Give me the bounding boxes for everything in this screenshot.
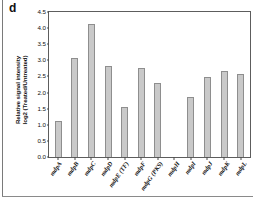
x-axis-label-slot: mdpC bbox=[83, 160, 100, 203]
x-axis-tick-label: mdpJ bbox=[200, 160, 214, 176]
bar-slot bbox=[83, 12, 100, 157]
bar-slot bbox=[183, 12, 200, 157]
x-axis-tick-label: mdpA bbox=[48, 160, 63, 177]
bar bbox=[237, 74, 244, 157]
bar bbox=[221, 71, 228, 157]
bar-slot bbox=[199, 12, 216, 157]
bar-slot bbox=[67, 12, 84, 157]
x-axis-tick-label: mdpC bbox=[82, 160, 97, 177]
bar-series bbox=[49, 12, 250, 157]
y-axis-title-line2: log2 (Treated/Untreated) bbox=[21, 56, 28, 125]
x-axis-label-slot: mdpH bbox=[166, 160, 183, 203]
bar bbox=[71, 58, 78, 157]
x-axis-label-slot: mdpA bbox=[49, 160, 66, 203]
figure-panel-d: d Relative signal intensity log2 (Treate… bbox=[0, 0, 255, 203]
x-axis-label-slot: mdpL bbox=[233, 160, 250, 203]
x-axis-tick-label: mdpB bbox=[65, 160, 80, 177]
x-axis-tick-label: mdpH bbox=[165, 160, 180, 177]
x-axis-tick-label: mdpK bbox=[216, 160, 231, 177]
x-axis-tick-label: mdpF bbox=[132, 160, 147, 177]
bar bbox=[204, 77, 211, 157]
bar-slot bbox=[166, 12, 183, 157]
bar bbox=[121, 107, 128, 157]
plot-area: 0.00.51.01.52.02.53.03.54.04.5 bbox=[48, 11, 251, 158]
bar bbox=[105, 66, 112, 157]
y-axis-title-line1: Relative signal intensity bbox=[14, 56, 21, 124]
page-edge-rule-left bbox=[2, 0, 3, 196]
x-axis-label-slot: mdpB bbox=[66, 160, 83, 203]
bar bbox=[138, 68, 145, 157]
bar-slot bbox=[100, 12, 117, 157]
bar-slot bbox=[116, 12, 133, 157]
x-axis-label-group: mdpAmdpBmdpCmdpDmdpE (TF)mdpFmdpG (PKS)m… bbox=[48, 160, 251, 203]
bar bbox=[88, 24, 95, 157]
x-axis-tick-label: mdpL bbox=[233, 160, 247, 177]
x-axis-label-slot: mdpK bbox=[217, 160, 234, 203]
panel-letter: d bbox=[9, 2, 16, 14]
bar-slot bbox=[50, 12, 67, 157]
bar-slot bbox=[232, 12, 249, 157]
bar-slot bbox=[149, 12, 166, 157]
y-axis-title: Relative signal intensity log2 (Treated/… bbox=[14, 22, 28, 158]
bar bbox=[55, 121, 62, 157]
bar-slot bbox=[133, 12, 150, 157]
x-axis-label-slot: mdpG (PKS) bbox=[150, 160, 167, 203]
x-axis-label-slot: mdpE (TF) bbox=[116, 160, 133, 203]
x-axis-tick-label: mdpI bbox=[183, 160, 197, 175]
bar bbox=[187, 97, 194, 157]
bar bbox=[154, 83, 161, 157]
x-axis-label-slot: mdpI bbox=[183, 160, 200, 203]
bar-slot bbox=[216, 12, 233, 157]
x-axis-tick-label: mdpD bbox=[98, 160, 113, 177]
x-axis-label-slot: mdpJ bbox=[200, 160, 217, 203]
